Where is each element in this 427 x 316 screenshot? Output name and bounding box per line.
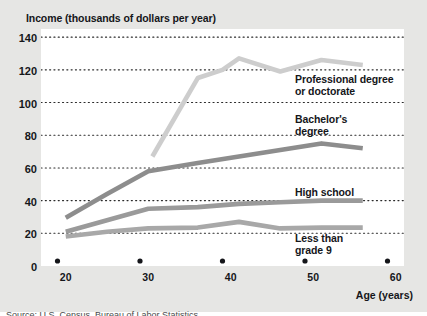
chart-plot-svg xyxy=(41,29,404,266)
y-tick-40: 40 xyxy=(25,196,37,207)
x-axis-tick-dots xyxy=(55,258,390,263)
x-tick-dot xyxy=(220,258,225,263)
x-tick-dot xyxy=(137,258,142,263)
y-tick-140: 140 xyxy=(19,33,37,44)
x-tick-dot xyxy=(55,258,60,263)
source-caption: Source: U.S. Census, Bureau of Labor Sta… xyxy=(6,310,198,316)
series-label-professional-degree: Professional degree or doctorate xyxy=(295,73,393,98)
x-tick-30: 30 xyxy=(142,272,154,283)
series-label-less-than-grade-9: Less than grade 9 xyxy=(295,232,343,257)
plot-area xyxy=(41,29,404,266)
x-axis-title: Age (years) xyxy=(356,289,413,301)
y-axis-tick-labels: 140 120 100 80 60 40 20 0 xyxy=(0,29,37,266)
series-label-high-school: High school xyxy=(295,186,354,198)
y-tick-80: 80 xyxy=(25,131,37,142)
x-axis-tick-labels: 20 30 40 50 60 xyxy=(41,272,404,288)
x-tick-20: 20 xyxy=(60,272,72,283)
y-tick-60: 60 xyxy=(25,164,37,175)
series-label-bachelors-degree: Bachelor's degree xyxy=(295,113,347,138)
y-tick-100: 100 xyxy=(19,98,37,109)
x-tick-40: 40 xyxy=(225,272,237,283)
y-axis-title: Income (thousands of dollars per year) xyxy=(26,12,216,24)
x-tick-60: 60 xyxy=(390,272,402,283)
y-tick-0: 0 xyxy=(31,262,37,273)
y-tick-20: 20 xyxy=(25,229,37,240)
x-tick-50: 50 xyxy=(307,272,319,283)
x-tick-dot xyxy=(302,258,307,263)
x-tick-dot xyxy=(385,258,390,263)
y-tick-120: 120 xyxy=(19,65,37,76)
